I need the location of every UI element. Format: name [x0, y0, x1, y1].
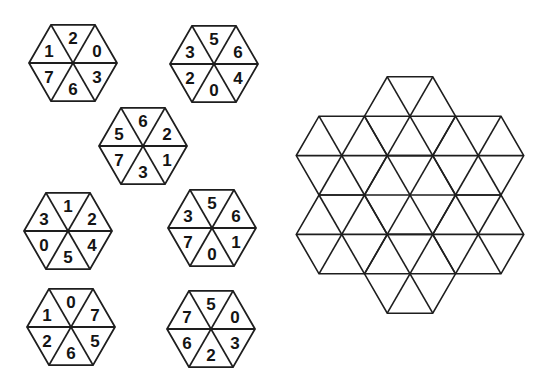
hexagon-digit-lower-left: 7: [114, 151, 123, 170]
hexagon-digit-upper-right: 0: [92, 42, 101, 61]
hexagon-pieces-group: 2107365362406527131320455367100172565706…: [24, 25, 258, 367]
hexagon-digit-lower-left: 2: [42, 332, 51, 351]
grid-hexagon-cell-south-west: [296, 195, 387, 274]
hexagon-piece: 536710: [168, 190, 256, 266]
grid-hexagon-cell-north: [365, 77, 456, 156]
hexagon-digit-bottom: 6: [66, 344, 75, 363]
hexagon-digit-bottom: 2: [206, 346, 215, 365]
hexagon-digit-bottom: 3: [138, 163, 147, 182]
hexagon-digit-upper-right: 6: [231, 207, 240, 226]
hexagon-digit-bottom: 0: [207, 245, 216, 264]
puzzle-figure: 2107365362406527131320455367100172565706…: [0, 0, 548, 390]
hexagon-piece: 536240: [170, 26, 258, 102]
hexagon-digit-lower-right: 5: [90, 332, 99, 351]
target-grid-group: [296, 77, 524, 313]
hexagon-digit-upper-left: 5: [114, 125, 123, 144]
hexagon-piece: 132045: [24, 193, 112, 269]
hexagon-digit-lower-left: 7: [183, 233, 192, 252]
hexagon-piece: 570632: [167, 291, 255, 367]
hexagon-digit-upper-right: 6: [233, 43, 242, 62]
hexagon-digit-upper-left: 1: [42, 306, 51, 325]
hexagon-digit-upper-right: 7: [90, 306, 99, 325]
hexagon-digit-lower-right: 1: [231, 233, 240, 252]
hexagon-piece: 652713: [99, 108, 187, 184]
hexagon-digit-top: 0: [66, 293, 75, 312]
hexagon-digit-bottom: 0: [209, 81, 218, 100]
hexagon-digit-lower-left: 0: [39, 236, 48, 255]
hexagon-piece: 017256: [27, 289, 115, 365]
grid-hexagon-cell-south: [365, 234, 456, 313]
hexagon-digit-lower-right: 4: [233, 69, 243, 88]
hexagon-digit-upper-left: 3: [183, 207, 192, 226]
grid-hexagon-cell-center: [365, 156, 456, 235]
hexagon-digit-lower-right: 1: [162, 151, 171, 170]
hexagon-digit-top: 6: [138, 112, 147, 131]
grid-hexagon-cell-north-west: [296, 116, 387, 195]
hexagon-digit-lower-right: 3: [92, 68, 101, 87]
hexagon-digit-lower-right: 3: [230, 334, 239, 353]
grid-hexagon-cell-south-east: [433, 195, 524, 274]
hexagon-digit-bottom: 6: [68, 80, 77, 99]
hexagon-digit-top: 5: [209, 30, 218, 49]
hexagon-digit-top: 2: [68, 29, 77, 48]
hexagon-digit-upper-left: 3: [39, 210, 48, 229]
hexagon-digit-upper-left: 7: [182, 308, 191, 327]
hexagon-digit-top: 1: [63, 197, 72, 216]
hexagon-digit-upper-left: 1: [44, 42, 53, 61]
hexagon-digit-lower-left: 7: [44, 68, 53, 87]
hexagon-digit-upper-right: 2: [162, 125, 171, 144]
hexagon-digit-lower-left: 6: [182, 334, 191, 353]
hexagon-digit-bottom: 5: [63, 248, 72, 267]
hexagon-digit-upper-right: 0: [230, 308, 239, 327]
hexagon-digit-top: 5: [206, 295, 215, 314]
hexagon-piece: 210736: [29, 25, 117, 101]
hexagon-digit-top: 5: [207, 194, 216, 213]
grid-hexagon-cell-north-east: [433, 116, 524, 195]
hexagon-digit-upper-left: 3: [185, 43, 194, 62]
hexagon-digit-upper-right: 2: [87, 210, 96, 229]
hexagon-digit-lower-left: 2: [185, 69, 194, 88]
hexagon-digit-lower-right: 4: [87, 236, 97, 255]
